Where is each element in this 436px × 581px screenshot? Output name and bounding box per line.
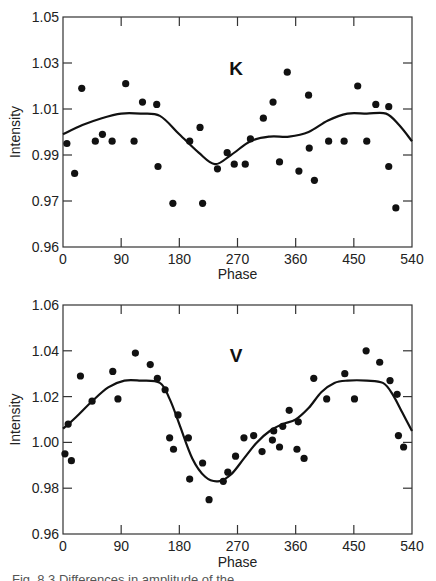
- y-tick-label: 0.96: [32, 526, 59, 542]
- data-point: [63, 140, 70, 147]
- y-axis-title: Intensity: [7, 106, 23, 158]
- data-point: [109, 138, 116, 145]
- data-point: [169, 200, 176, 207]
- x-tick-label: 540: [400, 251, 424, 267]
- data-point: [114, 395, 121, 402]
- data-point: [232, 453, 239, 460]
- data-point: [325, 138, 332, 145]
- data-point: [354, 82, 361, 89]
- data-point: [153, 101, 160, 108]
- data-point: [295, 168, 302, 175]
- y-tick-label: 1.05: [32, 9, 59, 25]
- x-tick-label: 90: [113, 251, 129, 267]
- y-tick-label: 1.01: [32, 101, 59, 117]
- data-point: [240, 434, 247, 441]
- data-point: [385, 103, 392, 110]
- data-point: [71, 170, 78, 177]
- x-tick-label: 360: [284, 538, 308, 554]
- data-point: [400, 443, 407, 450]
- data-point: [166, 434, 173, 441]
- data-point: [242, 161, 249, 168]
- model-curve: [63, 113, 412, 164]
- data-point: [130, 138, 137, 145]
- data-point: [109, 368, 116, 375]
- data-point: [305, 92, 312, 99]
- x-axis-title: Phase: [218, 554, 258, 570]
- data-point: [199, 200, 206, 207]
- y-tick-label: 1.04: [32, 343, 59, 359]
- data-point: [363, 138, 370, 145]
- data-point: [139, 99, 146, 106]
- data-point: [258, 448, 265, 455]
- data-point: [306, 145, 313, 152]
- data-point: [386, 377, 393, 384]
- x-tick-label: 270: [226, 538, 250, 554]
- y-tick-label: 1.02: [32, 389, 59, 405]
- y-tick-label: 0.96: [32, 239, 59, 255]
- x-tick-label: 270: [226, 251, 250, 267]
- figure-caption: Fig. 8.3 Differences in amplitude of the…: [12, 571, 432, 581]
- data-point: [92, 138, 99, 145]
- panel-label: K: [229, 58, 243, 79]
- data-point: [61, 450, 68, 457]
- k-band-panel: 0901802703604505401.051.031.010.990.970.…: [7, 9, 424, 282]
- data-point: [205, 496, 212, 503]
- y-axis-title: Intensity: [7, 393, 23, 445]
- data-point: [385, 163, 392, 170]
- data-point: [310, 375, 317, 382]
- model-curve: [63, 380, 412, 481]
- plot-frame: [63, 17, 412, 247]
- panel-label: V: [230, 345, 243, 366]
- x-tick-label: 540: [400, 538, 424, 554]
- data-point: [196, 124, 203, 131]
- plot-frame: [63, 305, 412, 534]
- data-point: [214, 165, 221, 172]
- data-point: [250, 432, 257, 439]
- data-point: [351, 395, 358, 402]
- data-point: [99, 131, 106, 138]
- data-point: [300, 455, 307, 462]
- data-point: [284, 69, 291, 76]
- data-point: [341, 138, 348, 145]
- data-point: [170, 446, 177, 453]
- y-tick-label: 1.03: [32, 55, 59, 71]
- y-tick-label: 0.98: [32, 480, 59, 496]
- x-tick-label: 90: [113, 538, 129, 554]
- data-point: [276, 158, 283, 165]
- data-point: [395, 432, 402, 439]
- data-point: [293, 446, 300, 453]
- data-point: [269, 99, 276, 106]
- x-axis-title: Phase: [218, 266, 258, 282]
- figure: 0901802703604505401.051.031.010.990.970.…: [0, 0, 436, 581]
- x-tick-label: 360: [284, 251, 308, 267]
- data-point: [154, 163, 161, 170]
- data-point: [260, 115, 267, 122]
- data-point: [231, 161, 238, 168]
- data-point: [286, 407, 293, 414]
- data-point: [341, 370, 348, 377]
- data-point: [372, 101, 379, 108]
- x-tick-label: 180: [168, 251, 192, 267]
- x-tick-label: 450: [342, 251, 366, 267]
- data-point: [199, 459, 206, 466]
- data-point: [323, 395, 330, 402]
- data-point: [77, 372, 84, 379]
- x-tick-label: 450: [342, 538, 366, 554]
- v-band-panel: 0901802703604505401.061.041.021.000.980.…: [7, 297, 424, 570]
- data-point: [269, 437, 276, 444]
- data-point: [78, 85, 85, 92]
- data-point: [363, 347, 370, 354]
- data-point: [276, 443, 283, 450]
- data-point: [376, 359, 383, 366]
- y-tick-label: 1.06: [32, 297, 59, 313]
- data-point: [186, 475, 193, 482]
- y-tick-label: 1.00: [32, 434, 59, 450]
- data-point: [311, 177, 318, 184]
- data-point: [122, 80, 129, 87]
- x-tick-label: 0: [59, 251, 67, 267]
- data-point: [147, 361, 154, 368]
- data-point: [132, 349, 139, 356]
- data-point: [392, 204, 399, 211]
- x-tick-label: 180: [168, 538, 192, 554]
- y-tick-label: 0.99: [32, 147, 59, 163]
